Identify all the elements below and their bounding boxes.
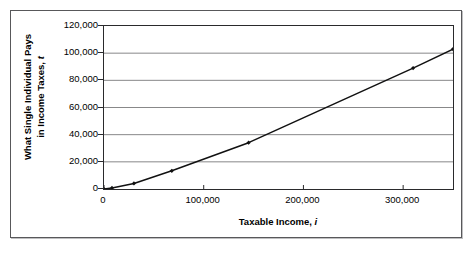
x-axis-tick-label: 200,000	[262, 194, 342, 205]
chart-figure: What Single Individual Pays in Income Ta…	[0, 0, 472, 255]
x-axis-tick-label: 300,000	[362, 194, 442, 205]
x-axis-tick-label: 100,000	[163, 194, 243, 205]
x-axis-title: Taxable Income, i	[103, 216, 453, 227]
x-axis-tick-label: 0	[63, 194, 143, 205]
x-axis-variable: i	[315, 216, 318, 227]
